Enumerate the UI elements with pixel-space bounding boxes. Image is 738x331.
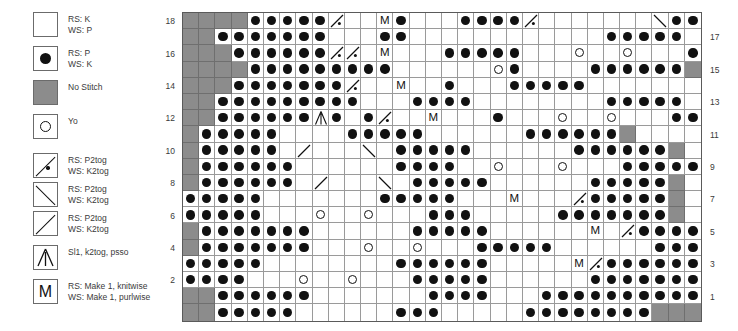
chart-cell[interactable] <box>588 143 604 159</box>
chart-cell[interactable] <box>313 29 329 45</box>
chart-cell[interactable] <box>280 240 296 256</box>
chart-cell[interactable] <box>393 256 409 272</box>
chart-cell[interactable] <box>539 256 555 272</box>
chart-cell[interactable] <box>426 62 442 78</box>
chart-cell[interactable] <box>458 240 474 256</box>
chart-cell[interactable] <box>410 191 426 207</box>
chart-cell[interactable] <box>539 45 555 61</box>
chart-cell[interactable] <box>669 94 685 110</box>
chart-cell[interactable] <box>248 240 264 256</box>
chart-cell[interactable] <box>329 29 345 45</box>
chart-cell[interactable] <box>652 94 668 110</box>
chart-cell[interactable] <box>329 143 345 159</box>
chart-cell[interactable] <box>296 29 312 45</box>
chart-cell[interactable] <box>393 288 409 304</box>
chart-cell[interactable] <box>588 240 604 256</box>
chart-cell[interactable] <box>652 304 668 320</box>
chart-cell[interactable] <box>377 175 393 191</box>
chart-cell[interactable] <box>442 94 458 110</box>
chart-cell[interactable] <box>572 29 588 45</box>
chart-cell[interactable] <box>539 143 555 159</box>
chart-cell[interactable] <box>232 143 248 159</box>
chart-cell[interactable] <box>685 288 701 304</box>
chart-cell[interactable] <box>393 272 409 288</box>
chart-cell[interactable] <box>652 143 668 159</box>
chart-cell[interactable] <box>491 191 507 207</box>
chart-cell[interactable] <box>442 175 458 191</box>
chart-cell[interactable] <box>458 62 474 78</box>
chart-cell[interactable] <box>523 175 539 191</box>
chart-cell[interactable] <box>555 191 571 207</box>
chart-cell[interactable] <box>523 143 539 159</box>
chart-cell[interactable] <box>296 110 312 126</box>
chart-cell[interactable] <box>636 126 652 142</box>
chart-cell[interactable] <box>296 126 312 142</box>
chart-cell[interactable] <box>410 126 426 142</box>
chart-cell[interactable] <box>248 191 264 207</box>
chart-cell[interactable] <box>426 272 442 288</box>
chart-cell[interactable] <box>280 207 296 223</box>
chart-cell[interactable] <box>588 62 604 78</box>
chart-cell[interactable] <box>345 159 361 175</box>
chart-cell[interactable] <box>523 110 539 126</box>
chart-cell[interactable] <box>604 126 620 142</box>
chart-cell[interactable] <box>507 175 523 191</box>
chart-cell[interactable] <box>329 78 345 94</box>
chart-cell[interactable] <box>296 62 312 78</box>
chart-cell[interactable] <box>572 159 588 175</box>
chart-cell[interactable] <box>361 159 377 175</box>
chart-cell[interactable] <box>264 62 280 78</box>
chart-cell[interactable] <box>393 45 409 61</box>
chart-cell[interactable] <box>491 94 507 110</box>
chart-cell[interactable] <box>345 143 361 159</box>
chart-cell[interactable] <box>458 45 474 61</box>
chart-cell[interactable] <box>426 13 442 29</box>
chart-cell[interactable] <box>393 29 409 45</box>
chart-cell[interactable] <box>313 110 329 126</box>
chart-cell[interactable] <box>313 45 329 61</box>
chart-cell[interactable] <box>685 159 701 175</box>
chart-cell[interactable] <box>652 240 668 256</box>
chart-cell[interactable] <box>377 110 393 126</box>
chart-cell[interactable] <box>329 256 345 272</box>
chart-cell[interactable] <box>313 272 329 288</box>
chart-cell[interactable] <box>329 175 345 191</box>
chart-cell[interactable] <box>652 191 668 207</box>
chart-cell[interactable] <box>248 159 264 175</box>
chart-cell[interactable] <box>313 159 329 175</box>
chart-cell[interactable] <box>345 223 361 239</box>
chart-cell[interactable] <box>296 175 312 191</box>
chart-cell[interactable] <box>361 191 377 207</box>
chart-cell[interactable] <box>377 126 393 142</box>
chart-cell[interactable] <box>669 159 685 175</box>
chart-cell[interactable] <box>377 304 393 320</box>
chart-cell[interactable] <box>685 110 701 126</box>
chart-cell[interactable] <box>588 126 604 142</box>
chart-cell[interactable] <box>620 240 636 256</box>
chart-cell[interactable] <box>329 126 345 142</box>
chart-cell[interactable] <box>539 207 555 223</box>
chart-cell[interactable] <box>442 45 458 61</box>
chart-cell[interactable] <box>361 240 377 256</box>
chart-cell[interactable]: M <box>572 256 588 272</box>
chart-cell[interactable] <box>539 240 555 256</box>
chart-cell[interactable] <box>410 159 426 175</box>
chart-cell[interactable] <box>199 240 215 256</box>
chart-cell[interactable] <box>232 78 248 94</box>
chart-cell[interactable] <box>507 272 523 288</box>
chart-cell[interactable] <box>361 223 377 239</box>
chart-cell[interactable] <box>523 78 539 94</box>
chart-cell[interactable] <box>572 191 588 207</box>
chart-cell[interactable] <box>377 143 393 159</box>
chart-cell[interactable] <box>555 45 571 61</box>
chart-cell[interactable] <box>507 110 523 126</box>
chart-cell[interactable] <box>604 304 620 320</box>
chart-cell[interactable] <box>669 272 685 288</box>
chart-cell[interactable] <box>329 13 345 29</box>
chart-cell[interactable] <box>183 110 199 126</box>
chart-cell[interactable] <box>296 13 312 29</box>
chart-cell[interactable] <box>426 126 442 142</box>
chart-cell[interactable] <box>685 94 701 110</box>
chart-cell[interactable] <box>442 240 458 256</box>
chart-cell[interactable] <box>458 288 474 304</box>
